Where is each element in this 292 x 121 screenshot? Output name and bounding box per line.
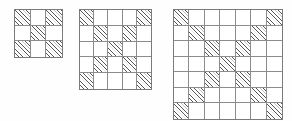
grid-cell-empty [205, 57, 220, 73]
grid-cell-hatched [123, 26, 137, 42]
grid-cell-empty [31, 41, 47, 57]
grid-cell-empty [108, 10, 122, 26]
grid-cell-empty [251, 10, 266, 26]
grid-cell-empty [137, 42, 151, 58]
grid-cell-empty [267, 41, 282, 57]
grid-cell-hatched [189, 26, 204, 42]
grid-cell-empty [189, 10, 204, 26]
grid-cell-empty [236, 88, 251, 104]
grid-cell-empty [205, 10, 220, 26]
grid-cell-hatched [174, 103, 189, 119]
grid-cell-empty [189, 41, 204, 57]
grid-cell-hatched [251, 88, 266, 104]
grid-cell-empty [174, 26, 189, 42]
grid-cell-hatched [31, 26, 47, 42]
grid-cell-empty [236, 26, 251, 42]
grid-cell-empty [205, 103, 220, 119]
grid-cell-empty [236, 10, 251, 26]
grid-cell-hatched [251, 26, 266, 42]
grid-cell-hatched [123, 57, 137, 73]
grid-cell-empty [189, 72, 204, 88]
grid-cell-empty [123, 73, 137, 89]
grid-cell-hatched [46, 41, 62, 57]
grid-cell-empty [94, 42, 108, 58]
grid-cell-empty [15, 26, 31, 42]
grid-cell-hatched [15, 41, 31, 57]
grid-cell-empty [94, 73, 108, 89]
grid-cell-empty [267, 72, 282, 88]
grid-cell-hatched [108, 42, 122, 58]
grid-cell-empty [220, 10, 235, 26]
grid-cell-hatched [46, 10, 62, 26]
grid-cell-empty [108, 73, 122, 89]
grid-figure-3 [173, 9, 283, 120]
grid-cell-hatched [267, 10, 282, 26]
grid-cell-empty [46, 26, 62, 42]
grid-cell-hatched [205, 72, 220, 88]
grid-cell-empty [220, 103, 235, 119]
grid-cell-empty [267, 88, 282, 104]
grid-cell-empty [174, 41, 189, 57]
grid-cell-hatched [236, 41, 251, 57]
grid-cell-empty [108, 26, 122, 42]
grid-cell-empty [220, 41, 235, 57]
grid-cell-empty [267, 57, 282, 73]
grid-cell-empty [31, 10, 47, 26]
grid-cell-empty [251, 72, 266, 88]
grid-cell-empty [220, 88, 235, 104]
grid-cell-empty [205, 88, 220, 104]
grid-cell-empty [205, 26, 220, 42]
grid-cell-empty [189, 103, 204, 119]
grid-cell-hatched [205, 41, 220, 57]
grid-cell-empty [94, 10, 108, 26]
grid-cell-empty [267, 26, 282, 42]
grid-cell-hatched [267, 103, 282, 119]
grid-cell-empty [174, 72, 189, 88]
grid-cell-hatched [137, 10, 151, 26]
grid-cell-hatched [137, 73, 151, 89]
grid-cell-empty [174, 88, 189, 104]
figure-sequence-container [0, 0, 292, 121]
grid-cell-hatched [15, 10, 31, 26]
grid-cell-hatched [94, 26, 108, 42]
grid-cell-hatched [80, 10, 94, 26]
grid-cell-empty [251, 57, 266, 73]
grid-cell-hatched [94, 57, 108, 73]
grid-cell-empty [174, 57, 189, 73]
grid-cell-empty [220, 72, 235, 88]
grid-figure-2 [79, 9, 152, 90]
grid-cell-empty [220, 26, 235, 42]
grid-cell-empty [80, 57, 94, 73]
grid-cell-hatched [189, 88, 204, 104]
grid-cell-hatched [236, 72, 251, 88]
grid-figure-1 [14, 9, 63, 58]
grid-cell-empty [80, 42, 94, 58]
grid-cell-hatched [174, 10, 189, 26]
grid-cell-hatched [80, 73, 94, 89]
grid-cell-empty [108, 57, 122, 73]
grid-cell-empty [236, 103, 251, 119]
grid-cell-empty [137, 57, 151, 73]
grid-cell-empty [251, 103, 266, 119]
grid-cell-empty [251, 41, 266, 57]
grid-cell-empty [236, 57, 251, 73]
grid-cell-empty [123, 10, 137, 26]
grid-cell-empty [189, 57, 204, 73]
grid-cell-empty [137, 26, 151, 42]
grid-cell-empty [80, 26, 94, 42]
grid-cell-hatched [220, 57, 235, 73]
grid-cell-empty [123, 42, 137, 58]
